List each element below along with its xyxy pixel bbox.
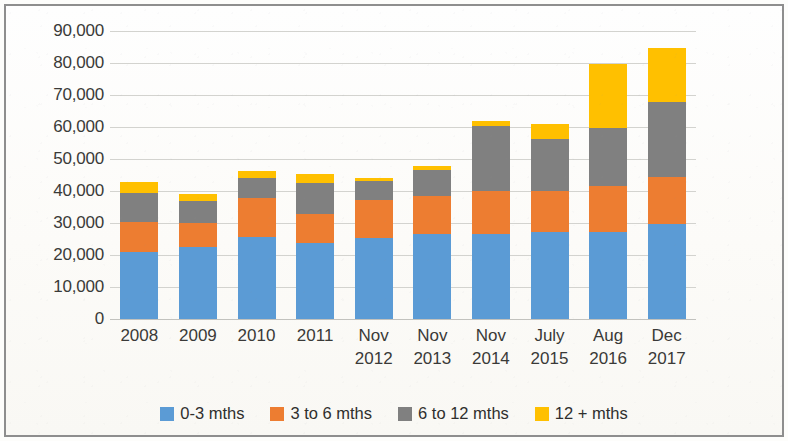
bar-segment[interactable]	[472, 191, 510, 234]
legend-swatch-icon	[270, 407, 284, 421]
x-axis-tick-label: Dec 2017	[631, 324, 703, 370]
bar-segment[interactable]	[472, 121, 510, 126]
y-axis-tick-label: 60,000	[14, 117, 104, 137]
bar-segment[interactable]	[413, 170, 451, 196]
y-axis-tick-label: 30,000	[14, 213, 104, 233]
legend-label: 0-3 mths	[180, 404, 244, 423]
bar-segment[interactable]	[589, 232, 627, 319]
y-axis-tick-label: 20,000	[14, 245, 104, 265]
bar-segment[interactable]	[120, 182, 158, 193]
y-axis: 90,00080,00070,00060,00050,00040,00030,0…	[14, 31, 104, 319]
bar-segment[interactable]	[355, 178, 393, 181]
legend-label: 3 to 6 mths	[290, 404, 372, 423]
bar-segment[interactable]	[238, 178, 276, 198]
bar-segment[interactable]	[179, 223, 217, 247]
bar-column[interactable]	[296, 174, 334, 319]
y-axis-tick-label: 70,000	[14, 85, 104, 105]
bar-column[interactable]	[589, 64, 627, 319]
y-axis-tick-label: 80,000	[14, 53, 104, 73]
legend-item[interactable]: 12 + mths	[535, 404, 628, 423]
axis-baseline	[110, 319, 696, 320]
bar-segment[interactable]	[589, 186, 627, 232]
bar-segment[interactable]	[531, 139, 569, 191]
bar-segment[interactable]	[648, 224, 686, 319]
bar-segment[interactable]	[238, 171, 276, 177]
bar-segment[interactable]	[296, 174, 334, 183]
bar-column[interactable]	[472, 121, 510, 319]
legend-swatch-icon	[160, 407, 174, 421]
bar-segment[interactable]	[120, 193, 158, 222]
chart-legend: 0-3 mths3 to 6 mths6 to 12 mths12 + mths	[6, 404, 782, 423]
bar-column[interactable]	[413, 166, 451, 319]
legend-item[interactable]: 3 to 6 mths	[270, 404, 372, 423]
bar-segment[interactable]	[648, 48, 686, 102]
bar-column[interactable]	[179, 194, 217, 319]
legend-label: 12 + mths	[555, 404, 628, 423]
bar-segment[interactable]	[296, 183, 334, 214]
bar-segment[interactable]	[531, 232, 569, 319]
bar-segment[interactable]	[238, 198, 276, 237]
chart-frame: 90,00080,00070,00060,00050,00040,00030,0…	[4, 4, 784, 437]
bar-segment[interactable]	[589, 64, 627, 128]
bar-column[interactable]	[648, 48, 686, 319]
bar-segment[interactable]	[296, 243, 334, 319]
y-axis-tick-label: 50,000	[14, 149, 104, 169]
bar-segment[interactable]	[120, 252, 158, 319]
plot-area	[110, 31, 696, 319]
bar-segment[interactable]	[472, 234, 510, 319]
bar-segment[interactable]	[179, 201, 217, 223]
bar-segment[interactable]	[179, 247, 217, 319]
y-axis-tick-label: 40,000	[14, 181, 104, 201]
bar-column[interactable]	[355, 178, 393, 319]
bar-segment[interactable]	[648, 102, 686, 177]
bars-container	[110, 31, 696, 319]
bar-segment[interactable]	[413, 196, 451, 234]
bar-column[interactable]	[120, 182, 158, 319]
bar-segment[interactable]	[531, 124, 569, 139]
bar-column[interactable]	[531, 124, 569, 319]
bar-segment[interactable]	[120, 222, 158, 252]
bar-segment[interactable]	[238, 237, 276, 319]
bar-segment[interactable]	[648, 177, 686, 224]
bar-segment[interactable]	[355, 181, 393, 200]
bar-segment[interactable]	[179, 194, 217, 201]
bar-segment[interactable]	[589, 128, 627, 186]
chart-page: 90,00080,00070,00060,00050,00040,00030,0…	[0, 0, 788, 441]
legend-item[interactable]: 6 to 12 mths	[398, 404, 509, 423]
legend-item[interactable]: 0-3 mths	[160, 404, 244, 423]
bar-segment[interactable]	[296, 214, 334, 243]
y-axis-tick-label: 90,000	[14, 21, 104, 41]
x-axis: 2008200920102011Nov 2012Nov 2013Nov 2014…	[110, 324, 696, 386]
y-axis-tick-label: 0	[14, 309, 104, 329]
bar-segment[interactable]	[413, 166, 451, 170]
legend-label: 6 to 12 mths	[418, 404, 509, 423]
legend-swatch-icon	[398, 407, 412, 421]
legend-swatch-icon	[535, 407, 549, 421]
bar-segment[interactable]	[355, 238, 393, 319]
y-axis-tick-label: 10,000	[14, 277, 104, 297]
bar-column[interactable]	[238, 171, 276, 319]
bar-segment[interactable]	[355, 200, 393, 238]
bar-segment[interactable]	[413, 234, 451, 319]
bar-segment[interactable]	[472, 126, 510, 191]
bar-segment[interactable]	[531, 191, 569, 232]
